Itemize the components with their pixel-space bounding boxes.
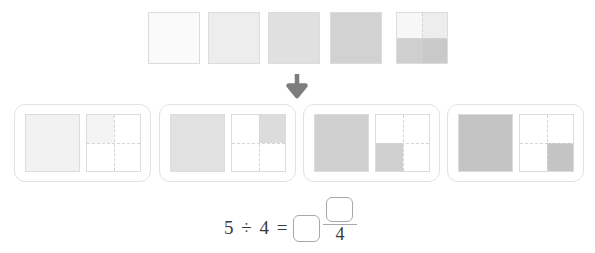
quadrant-bottom-right — [403, 143, 430, 171]
quadrant-bottom-left — [376, 143, 403, 171]
square-fill — [26, 115, 79, 171]
square-fill — [331, 13, 381, 63]
group-whole-square — [458, 114, 513, 172]
group-whole-square — [314, 114, 369, 172]
quadrant-top-left — [232, 115, 259, 143]
quadrant-top-right — [403, 115, 430, 143]
group-whole-square — [170, 114, 225, 172]
quadrant-top-left — [520, 115, 547, 143]
group-quarter-square — [375, 114, 430, 172]
quadrant-top-right — [547, 115, 574, 143]
square-fill — [171, 115, 224, 171]
worksheet-page: 5 ÷ 4 = 4 — [0, 0, 595, 253]
share-group-4 — [447, 104, 584, 182]
quadrant-bottom-left — [520, 143, 547, 171]
quadrant-bottom-left — [232, 143, 259, 171]
share-group-3 — [303, 104, 440, 182]
quadrant-bottom-left — [87, 143, 114, 171]
quadrant-top-left — [87, 115, 114, 143]
whole-square-2 — [208, 12, 260, 64]
quadrant-bottom-right — [259, 143, 286, 171]
equation-row: 5 ÷ 4 = 4 — [0, 196, 595, 253]
whole-square-1 — [148, 12, 200, 64]
whole-square-3 — [268, 12, 320, 64]
group-quarter-square — [86, 114, 141, 172]
down-arrow-icon — [283, 72, 311, 100]
square-fill — [149, 13, 199, 63]
whole-squares-row — [0, 0, 595, 72]
share-group-1 — [14, 104, 151, 182]
share-group-2 — [159, 104, 296, 182]
quadrant-top-right — [422, 13, 447, 38]
quadrant-bottom-left — [397, 38, 422, 63]
group-quarter-square — [231, 114, 286, 172]
equation-left-side: 5 ÷ 4 = — [224, 218, 289, 237]
quadrant-top-right — [259, 115, 286, 143]
square-fill — [269, 13, 319, 63]
group-quarter-square — [519, 114, 574, 172]
quadrant-top-right — [114, 115, 141, 143]
square-fill — [459, 115, 512, 171]
quadrant-top-left — [397, 13, 422, 38]
whole-square-4 — [330, 12, 382, 64]
group-whole-square — [25, 114, 80, 172]
square-fill — [315, 115, 368, 171]
numerator-answer-box[interactable] — [326, 197, 353, 222]
square-fill — [209, 13, 259, 63]
whole-square-5-quartered — [396, 12, 448, 64]
fraction-answer: 4 — [323, 197, 357, 244]
quadrant-top-left — [376, 115, 403, 143]
quadrant-bottom-right — [114, 143, 141, 171]
quadrant-bottom-right — [547, 143, 574, 171]
whole-number-answer-box[interactable] — [293, 215, 320, 242]
quadrant-bottom-right — [422, 38, 447, 63]
denominator-value: 4 — [335, 225, 344, 244]
